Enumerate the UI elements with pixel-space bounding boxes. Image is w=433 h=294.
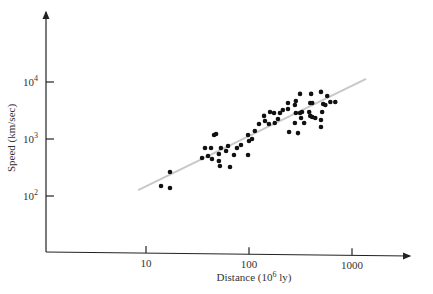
data-point bbox=[219, 146, 224, 151]
data-point bbox=[319, 90, 324, 95]
data-point bbox=[217, 152, 222, 157]
data-point bbox=[209, 146, 214, 151]
data-point bbox=[300, 110, 305, 115]
data-points bbox=[159, 90, 338, 191]
data-point bbox=[217, 159, 222, 164]
data-point bbox=[319, 125, 324, 130]
data-point bbox=[246, 133, 251, 138]
data-point bbox=[267, 122, 272, 127]
data-point bbox=[299, 116, 304, 121]
data-point bbox=[328, 100, 333, 105]
data-point bbox=[294, 111, 299, 116]
y-axis-title: Speed (km/sec) bbox=[5, 104, 18, 172]
data-point bbox=[263, 119, 268, 124]
data-point bbox=[272, 111, 277, 116]
x-ticks: 101001000 bbox=[141, 246, 364, 271]
data-point bbox=[224, 149, 229, 154]
data-point bbox=[293, 121, 298, 126]
data-point bbox=[320, 110, 325, 115]
y-tick-label: 103 bbox=[23, 131, 38, 145]
data-point bbox=[226, 144, 231, 149]
x-axis-title: Distance (106 ly) bbox=[217, 270, 292, 284]
data-point bbox=[319, 118, 324, 123]
data-point bbox=[313, 116, 318, 121]
data-point bbox=[239, 143, 244, 148]
data-point bbox=[286, 107, 291, 112]
data-point bbox=[159, 184, 164, 189]
data-point bbox=[333, 100, 338, 105]
data-point bbox=[310, 101, 315, 106]
data-point bbox=[250, 137, 255, 142]
data-point bbox=[281, 108, 286, 113]
data-point bbox=[246, 153, 251, 158]
data-point bbox=[287, 130, 292, 135]
data-point bbox=[298, 92, 303, 97]
data-point bbox=[214, 132, 219, 137]
x-axis bbox=[46, 252, 410, 256]
fit-line bbox=[138, 79, 366, 190]
data-point bbox=[325, 94, 330, 99]
data-point bbox=[262, 114, 267, 119]
data-point bbox=[232, 153, 237, 158]
axes bbox=[46, 12, 410, 256]
data-point bbox=[200, 156, 205, 161]
data-point bbox=[293, 103, 298, 108]
data-point bbox=[294, 99, 299, 104]
data-point bbox=[272, 121, 277, 126]
data-point bbox=[302, 121, 307, 126]
data-point bbox=[210, 157, 215, 162]
data-point bbox=[228, 165, 233, 170]
data-point bbox=[253, 129, 258, 134]
x-tick-label: 10 bbox=[141, 257, 153, 269]
data-point bbox=[268, 110, 273, 115]
data-point bbox=[206, 154, 211, 159]
data-point bbox=[235, 146, 240, 151]
data-point bbox=[168, 186, 173, 191]
data-point bbox=[296, 131, 301, 136]
y-tick-label: 102 bbox=[23, 188, 38, 202]
data-point bbox=[203, 146, 208, 151]
data-point bbox=[218, 164, 223, 169]
y-ticks: 102103104 bbox=[23, 74, 54, 202]
data-point bbox=[276, 117, 281, 122]
data-point bbox=[257, 122, 262, 127]
data-point bbox=[307, 110, 312, 115]
data-point bbox=[168, 170, 173, 175]
data-point bbox=[323, 103, 328, 108]
data-point bbox=[308, 114, 313, 119]
x-tick-label: 100 bbox=[241, 258, 258, 270]
hubble-scatter-chart: 102103104 101001000 Distance (106 ly) Sp… bbox=[0, 0, 433, 294]
x-tick-label: 1000 bbox=[341, 259, 364, 271]
data-point bbox=[309, 92, 314, 97]
data-point bbox=[286, 101, 291, 106]
trend-line bbox=[138, 79, 366, 190]
y-tick-label: 104 bbox=[23, 74, 38, 88]
